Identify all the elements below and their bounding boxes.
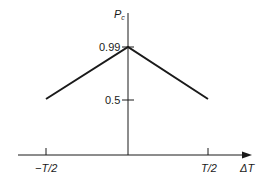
y-axis-label-sub: c <box>121 14 125 21</box>
x-tick-label-neg-half-t: −T/2 <box>35 163 57 174</box>
y-axis-label: Pc <box>114 9 125 21</box>
x-axis-arrow-icon <box>242 152 252 159</box>
pc-series-line <box>46 47 208 99</box>
chart-canvas <box>0 0 266 179</box>
y-tick-label-0-99: 0.99 <box>99 42 120 53</box>
x-axis-label: ΔT <box>240 163 254 174</box>
y-tick-label-0-5: 0.5 <box>105 95 120 106</box>
x-tick-label-pos-half-t: T/2 <box>201 163 217 174</box>
